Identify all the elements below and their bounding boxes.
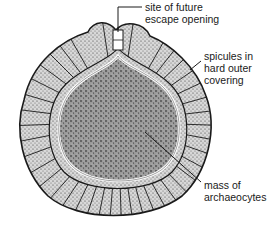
label-line: archaeocytes [204,191,266,203]
label-line: escape opening [145,13,219,25]
label-line: covering [204,74,253,86]
label-line: mass of [204,179,266,191]
label-spicules: spicules in hard outer covering [204,50,253,86]
label-line: hard outer [204,62,253,74]
label-line: spicules in [204,50,253,62]
label-line: site of future [145,1,219,13]
escape-opening-pore [113,30,123,50]
leader-spicules [190,61,201,70]
label-escape-opening: site of future escape opening [145,1,219,25]
label-archaeocytes: mass of archaeocytes [204,179,266,203]
